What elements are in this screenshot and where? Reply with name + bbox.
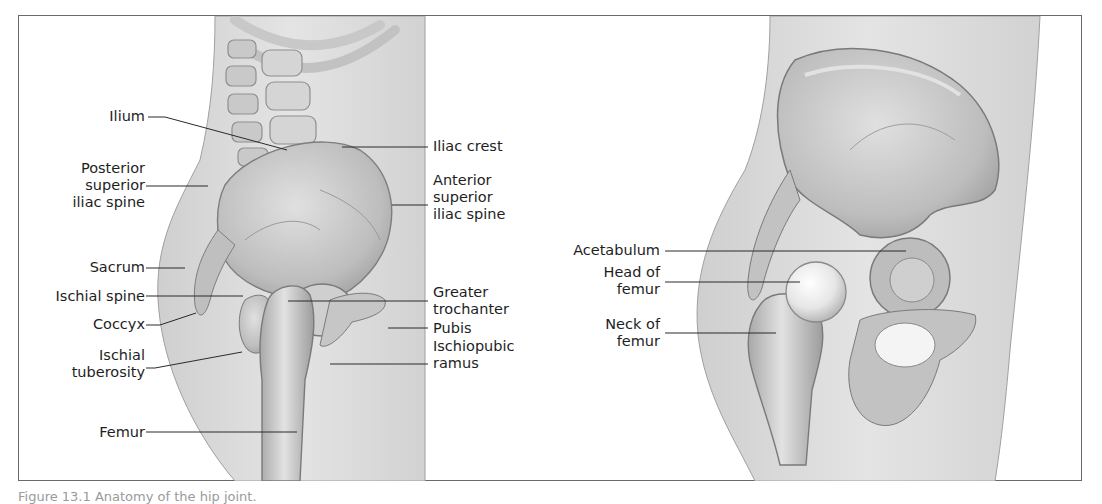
figure-caption: Figure 13.1 Anatomy of the hip joint. <box>18 489 257 504</box>
label-femur: Femur <box>99 424 145 441</box>
femoral-head-right <box>786 262 846 322</box>
label-anterior-superior-iliac-spine: Anterior superior iliac spine <box>433 172 505 223</box>
label-ischial-spine: Ischial spine <box>56 288 145 305</box>
label-ilium: Ilium <box>109 108 145 125</box>
label-ischial-tuberosity: Ischial tuberosity <box>72 347 145 381</box>
label-pubis: Pubis <box>433 320 471 337</box>
label-iliac-crest: Iliac crest <box>433 138 503 155</box>
label-ischiopubic-ramus: Ischiopubic ramus <box>433 338 515 372</box>
label-sacrum: Sacrum <box>90 259 145 276</box>
label-greater-trochanter: Greater trochanter <box>433 284 509 318</box>
label-coccyx: Coccyx <box>93 316 145 333</box>
label-posterior-superior-iliac-spine: Posterior superior iliac spine <box>73 160 145 211</box>
label-neck-of-femur: Neck of femur <box>605 316 660 350</box>
label-head-of-femur: Head of femur <box>604 264 661 298</box>
label-acetabulum: Acetabulum <box>573 242 660 259</box>
